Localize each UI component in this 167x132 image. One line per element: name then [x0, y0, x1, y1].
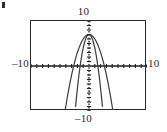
- graphing-calculator-figure: 10 –10 10 –10: [0, 0, 167, 132]
- x-max-label: 10: [148, 58, 166, 69]
- y-min-label: –10: [0, 113, 167, 124]
- plot-canvas: [31, 21, 147, 111]
- plot-frame: [30, 20, 146, 110]
- x-min-label: –10: [1, 58, 29, 69]
- y-max-label: 10: [0, 6, 167, 17]
